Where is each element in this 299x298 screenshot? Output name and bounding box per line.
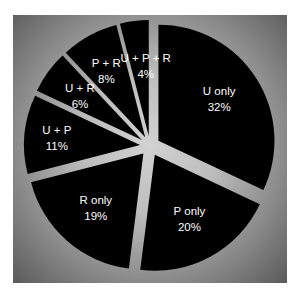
pie-chart: U only32%P only20%R only19%U + P11%U + R… bbox=[0, 0, 299, 298]
slice-percent: 4% bbox=[137, 68, 154, 80]
slice-percent: 19% bbox=[84, 210, 107, 222]
slice-percent: 32% bbox=[208, 101, 231, 113]
slice-label: U + P + R bbox=[121, 52, 171, 64]
slice-label: R only bbox=[80, 194, 113, 206]
slice-percent: 8% bbox=[98, 73, 115, 85]
slice-percent: 6% bbox=[72, 98, 89, 110]
slice-label: P + R bbox=[92, 57, 121, 69]
slice-label: P only bbox=[174, 205, 206, 217]
slice-label: U only bbox=[203, 85, 236, 97]
slice-label: U + P bbox=[42, 124, 71, 136]
slice-percent: 11% bbox=[46, 140, 68, 152]
slice-label: U + R bbox=[65, 82, 95, 94]
slice-percent: 20% bbox=[178, 221, 201, 233]
